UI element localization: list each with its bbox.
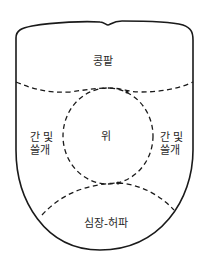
region-label-liver-gallbladder-left: 간 및 쓸개: [30, 131, 54, 157]
region-label-heart-lung: 심장-허파: [84, 217, 128, 230]
lower-boundary-arc: [42, 183, 174, 215]
junction-dot-top: [125, 90, 128, 93]
region-label-stomach: 위: [101, 130, 111, 143]
region-label-liver-gallbladder-right: 간 및 쓸개: [160, 131, 184, 157]
junction-dot-bottom: [116, 181, 119, 184]
region-label-kidney: 콩팥: [93, 55, 113, 68]
upper-boundary-line: [16, 82, 193, 92]
